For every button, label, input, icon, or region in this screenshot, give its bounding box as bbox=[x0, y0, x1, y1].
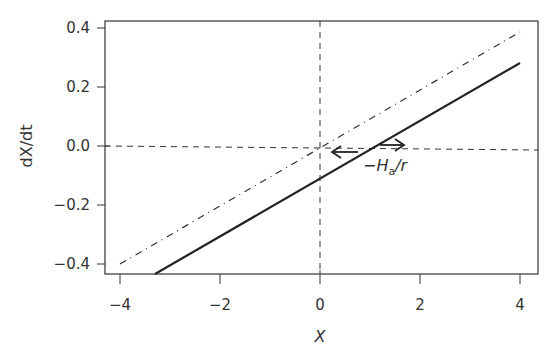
x-axis-label: X bbox=[314, 327, 327, 346]
x-axis bbox=[120, 270, 520, 284]
x-tick-label: 4 bbox=[515, 296, 525, 314]
x-tick-label: −2 bbox=[209, 296, 231, 314]
annotation-label: −Ha/r bbox=[363, 156, 409, 178]
x-tick-label: 2 bbox=[415, 296, 425, 314]
chart: 0.4 0.2 0.0 −0.2 −0.4 dX/dt −4 −2 0 2 4 … bbox=[0, 0, 547, 361]
x-tick-label: −4 bbox=[109, 296, 131, 314]
y-tick-label: −0.2 bbox=[54, 196, 90, 214]
y-tick-label: −0.4 bbox=[54, 255, 90, 273]
y-tick-label: 0.2 bbox=[66, 78, 90, 96]
zero-horizontal-line bbox=[105, 146, 538, 150]
x-tick-label: 0 bbox=[315, 296, 325, 314]
solid-series-line bbox=[155, 63, 520, 274]
y-tick-label: 0.0 bbox=[66, 137, 90, 155]
y-tick-label: 0.4 bbox=[66, 19, 90, 37]
y-axis-label: dX/dt bbox=[17, 125, 36, 168]
